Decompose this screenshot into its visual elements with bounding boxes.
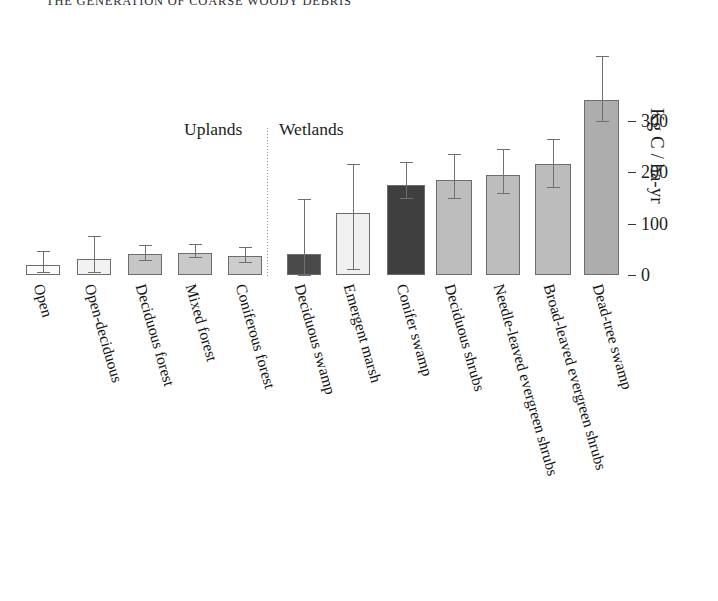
category-label-open: Open (30, 282, 57, 319)
y-tick-label-100: 100 (641, 213, 668, 234)
error-bar-needle-leaved-evergreen-shrubs (503, 149, 504, 193)
error-cap-top-conifer-swamp (400, 162, 413, 163)
figure-bar-chart-cwd-generation: THE GENERATION OF COARSE WOODY DEBRIS Up… (0, 0, 718, 601)
error-cap-bottom-deciduous-swamp (298, 275, 311, 276)
category-label-deciduous-forest: Deciduous forest (132, 282, 178, 388)
y-tick-mark-200 (628, 172, 636, 173)
error-cap-bottom-open-deciduous (88, 272, 101, 273)
error-cap-top-open (37, 251, 50, 252)
category-label-open-deciduous: Open-deciduous (81, 282, 126, 385)
category-label-deciduous-swamp: Deciduous swamp (291, 282, 340, 397)
error-cap-top-deciduous-forest (139, 245, 152, 246)
error-bar-emergent-marsh (353, 164, 354, 269)
error-bar-open (43, 251, 44, 272)
error-bar-dead-tree-swamp (602, 56, 603, 120)
group-label-uplands: Uplands (184, 119, 242, 140)
y-axis-title: Kg C / ha-yr (646, 108, 668, 204)
error-cap-top-coniferous-forest (239, 247, 252, 248)
y-tick-mark-0 (628, 275, 636, 276)
error-cap-bottom-deciduous-shrubs (448, 198, 461, 199)
error-cap-bottom-mixed-forest (189, 257, 202, 258)
bar-dead-tree-swamp (584, 100, 619, 275)
category-label-deciduous-shrubs: Deciduous shrubs (441, 282, 489, 393)
y-tick-mark-100 (628, 224, 636, 225)
error-cap-bottom-broad-leaved-evergreen-shrubs (547, 187, 560, 188)
error-bar-deciduous-swamp (304, 199, 305, 275)
category-label-mixed-forest: Mixed forest (182, 282, 221, 364)
category-label-conifer-swamp: Conifer swamp (393, 282, 437, 378)
error-cap-bottom-emergent-marsh (347, 269, 360, 270)
error-cap-top-deciduous-shrubs (448, 154, 461, 155)
group-divider (267, 128, 268, 277)
plot-area: Uplands Wetlands 3002001000 OpenOpen-dec… (0, 0, 718, 601)
error-bar-open-deciduous (94, 236, 95, 272)
error-cap-bottom-needle-leaved-evergreen-shrubs (497, 193, 510, 194)
error-cap-bottom-dead-tree-swamp (596, 121, 609, 122)
error-cap-top-deciduous-swamp (298, 199, 311, 200)
error-cap-top-mixed-forest (189, 244, 202, 245)
error-cap-top-open-deciduous (88, 236, 101, 237)
error-cap-top-broad-leaved-evergreen-shrubs (547, 139, 560, 140)
y-tick-label-0: 0 (641, 265, 650, 286)
error-cap-bottom-open (37, 272, 50, 273)
error-cap-top-emergent-marsh (347, 164, 360, 165)
error-bar-deciduous-shrubs (454, 154, 455, 198)
error-bar-mixed-forest (195, 244, 196, 257)
y-tick-mark-300 (628, 121, 636, 122)
error-bar-broad-leaved-evergreen-shrubs (553, 139, 554, 188)
error-bar-deciduous-forest (145, 245, 146, 259)
error-cap-top-dead-tree-swamp (596, 56, 609, 57)
category-label-coniferous-forest: Coniferous forest (232, 282, 279, 391)
group-label-wetlands: Wetlands (279, 119, 344, 140)
error-cap-bottom-deciduous-forest (139, 260, 152, 261)
error-cap-top-needle-leaved-evergreen-shrubs (497, 149, 510, 150)
category-label-dead-tree-swamp: Dead-tree swamp (589, 282, 636, 392)
error-bar-coniferous-forest (245, 247, 246, 262)
error-bar-conifer-swamp (406, 162, 407, 198)
error-cap-bottom-conifer-swamp (400, 198, 413, 199)
error-cap-bottom-coniferous-forest (239, 262, 252, 263)
category-label-emergent-marsh: Emergent marsh (340, 282, 385, 385)
